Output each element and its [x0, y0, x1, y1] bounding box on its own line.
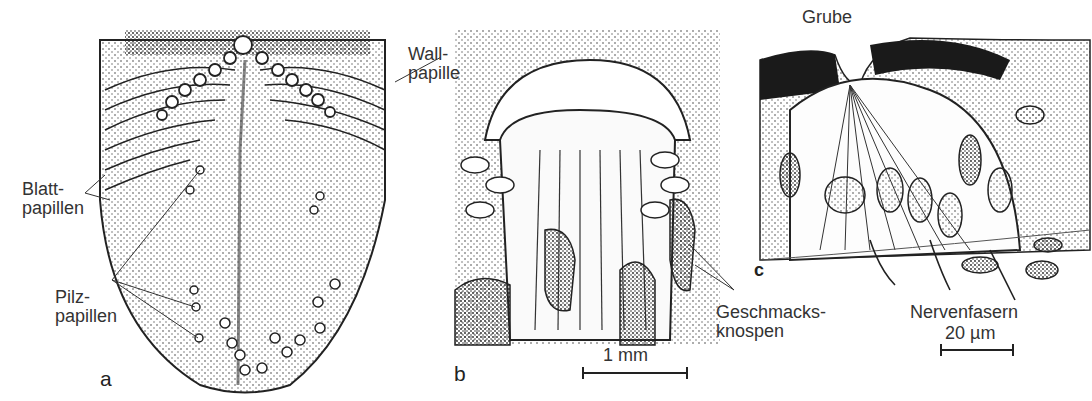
scale-bar-b [582, 372, 688, 374]
scale-bar-c [940, 349, 1014, 351]
panel-b-wallpapille: Wall- papille b 1 mm [440, 0, 730, 401]
label-line: Wall- [408, 45, 460, 64]
label-line: Pilz- [55, 288, 117, 307]
panel-label-a: a [100, 367, 112, 391]
panel-c-geschmacksknospe: Grube c Nervenfasern 20 µm [750, 0, 1092, 401]
label-blattpapillen: Blatt- papillen [22, 180, 84, 218]
label-line: papille [408, 64, 460, 83]
wallpapille-illustration [440, 0, 730, 401]
label-pilzpapillen: Pilz- papillen [55, 288, 117, 326]
taste-bud-illustration [750, 0, 1092, 401]
scale-label-b: 1 mm [603, 346, 648, 365]
label-grube: Grube [802, 8, 852, 27]
scale-label-c: 20 µm [945, 324, 995, 343]
label-line: papillen [22, 199, 84, 218]
panel-label-b: b [454, 362, 466, 386]
label-nervenfasern: Nervenfasern [910, 303, 1018, 322]
label-line: papillen [55, 307, 117, 326]
panel-a-tongue: Blatt- papillen Pilz- papillen a [0, 0, 440, 401]
panel-label-c: c [754, 260, 764, 281]
label-line: Blatt- [22, 180, 84, 199]
label-wallpapille: Wall- papille [408, 45, 460, 83]
